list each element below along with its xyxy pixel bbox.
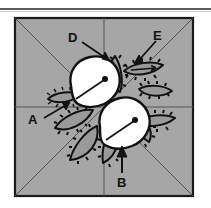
top-divider-rule [0,8,211,10]
lower-flower [99,97,149,148]
callout-label-e: E [153,29,162,42]
quilt-block-figure: A B D E [0,0,211,208]
top-divider-rule-secondary [0,11,211,12]
lower-flower-stamen-dot [132,117,138,123]
callout-label-b: B [117,176,126,189]
callout-label-d: D [68,31,77,44]
callout-label-a: A [28,113,37,126]
upper-flower-stamen-dot [102,76,108,82]
block-illustration [0,0,211,208]
lower-flower-petal [99,97,149,148]
